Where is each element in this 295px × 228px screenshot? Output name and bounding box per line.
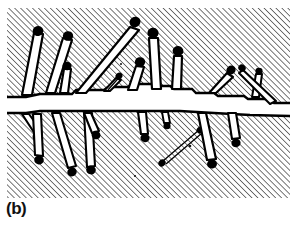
speck	[189, 145, 192, 148]
dislocation-schematic-drawing	[0, 0, 295, 228]
speck	[134, 175, 136, 177]
figure-caption: (b)	[6, 200, 26, 217]
dislocation-loop	[172, 46, 184, 89]
figure-panel: (b)	[0, 0, 295, 228]
speck	[120, 63, 122, 65]
